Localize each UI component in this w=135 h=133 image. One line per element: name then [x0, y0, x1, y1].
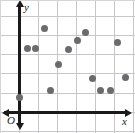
x-axis-label: x — [122, 116, 127, 127]
labels-layer: y x O — [0, 0, 135, 133]
scatter-plot: y x O — [0, 0, 135, 133]
y-axis-label: y — [24, 2, 29, 13]
origin-label: O — [7, 115, 15, 126]
